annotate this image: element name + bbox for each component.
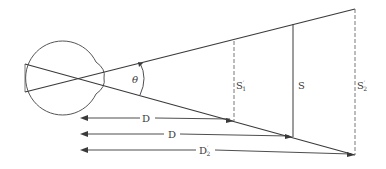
angle-arc <box>140 63 144 95</box>
d1-label: D <box>142 113 150 124</box>
d2-prime-label: D′2 <box>199 144 210 157</box>
d1-line-right <box>155 118 230 119</box>
visual-angle-diagram: θ S′1 S S′2 D D D′2 <box>0 0 386 169</box>
d-label: D <box>168 129 176 140</box>
d-left-arrowhead <box>80 131 88 137</box>
s2-prime-label: S′2 <box>357 79 367 92</box>
lower-ray <box>25 64 355 155</box>
eye <box>25 41 104 115</box>
s-label: S <box>298 80 305 91</box>
d2-left-arrowhead <box>80 147 88 153</box>
d-line-right <box>180 134 289 136</box>
d1-left-arrowhead <box>80 115 88 121</box>
distance-d: D <box>80 129 293 140</box>
theta-label: θ <box>132 74 138 85</box>
d-right-arrowhead <box>285 134 293 139</box>
distance-d2-prime: D′2 <box>80 144 355 157</box>
upper-ray <box>25 9 355 92</box>
d2-line-right <box>215 150 351 154</box>
s1-prime-label: S′1 <box>236 79 246 92</box>
eyeball-outline <box>26 41 105 115</box>
